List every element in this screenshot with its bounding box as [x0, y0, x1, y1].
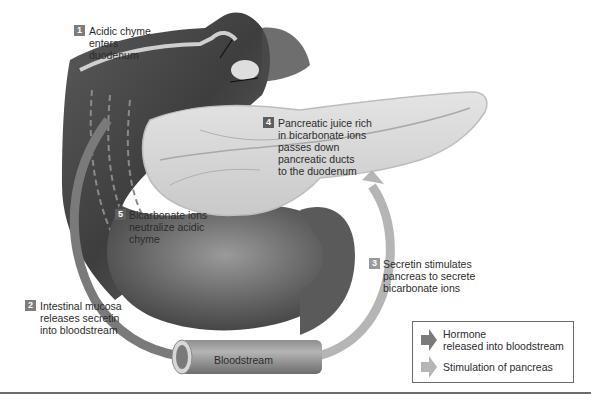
step-1-badge: 1: [74, 25, 85, 36]
step-2-line: releases secretin: [40, 312, 122, 324]
step-4-line: to the duodenum: [278, 165, 372, 177]
step-4-badge: 4: [263, 117, 274, 128]
legend-item-stimulation: Stimulation of pancreas: [421, 356, 553, 378]
step-2-line: Intestinal mucosa: [40, 300, 122, 312]
step-1-line: Acidic chyme: [89, 25, 151, 37]
step-3-line: Secretin stimulates: [383, 258, 475, 270]
bottom-rule: [0, 392, 591, 394]
step-5-line: Bicarbonate ions: [129, 209, 207, 221]
step-5-badge: 5: [115, 209, 126, 220]
step-3-line: bicarbonate ions: [383, 282, 475, 294]
step-1-line: enters: [89, 37, 151, 49]
dark-arrow-icon: [421, 329, 437, 351]
legend-item-hormone: Hormone released into bloodstream: [421, 328, 564, 352]
step-2-line: into bloodstream: [40, 324, 122, 336]
legend-stimulation-line: Stimulation of pancreas: [443, 361, 553, 373]
step-1-line: duodenum: [89, 49, 151, 61]
bloodstream-label: Bloodstream: [214, 354, 273, 366]
step-4-label: Pancreatic juice rich in bicarbonate ion…: [278, 117, 372, 177]
step-2-badge: 2: [25, 300, 36, 311]
legend-hormone-line: Hormone: [443, 328, 564, 340]
step-4-line: passes down: [278, 141, 372, 153]
secretin-diagram: 1 Acidic chyme enters duodenum 4 Pancrea…: [0, 0, 591, 405]
step-2-label: Intestinal mucosa releases secretin into…: [40, 300, 122, 336]
legend: Hormone released into bloodstream Stimul…: [412, 321, 574, 383]
step-3-line: pancreas to secrete: [383, 270, 475, 282]
step-3-label: Secretin stimulates pancreas to secrete …: [383, 258, 475, 294]
step-1-label: Acidic chyme enters duodenum: [89, 25, 151, 61]
step-4-line: Pancreatic juice rich: [278, 117, 372, 129]
step-3-badge: 3: [369, 258, 380, 269]
step-5-line: neutralize acidic: [129, 221, 207, 233]
step-4-line: in bicarbonate ions: [278, 129, 372, 141]
step-4-line: pancreatic ducts: [278, 153, 372, 165]
light-arrow-icon: [421, 356, 437, 378]
legend-hormone-line: released into bloodstream: [443, 340, 564, 352]
step-5-label: Bicarbonate ions neutralize acidic chyme: [129, 209, 207, 245]
step-5-line: chyme: [129, 233, 207, 245]
